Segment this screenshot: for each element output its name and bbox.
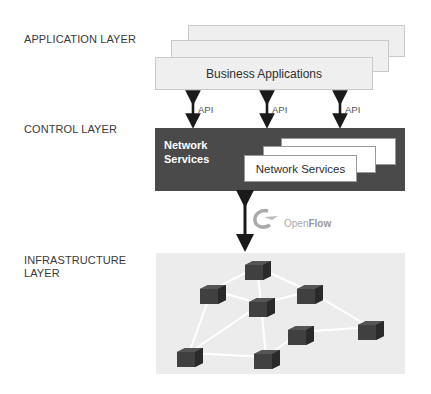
double-arrow-icon — [193, 98, 340, 121]
network-services-label: Network Services — [256, 163, 345, 175]
openflow-logo-icon — [252, 207, 280, 231]
business-applications-box: Business Applications — [155, 57, 373, 90]
control-title: Network Services — [164, 138, 209, 166]
infrastructure-label-line2: LAYER — [24, 267, 126, 280]
openflow-label: OpenFlow — [284, 218, 331, 229]
application-layer-label: APPLICATION LAYER — [24, 33, 136, 46]
openflow-label-open: Open — [284, 218, 308, 229]
business-applications-label: Business Applications — [206, 67, 322, 81]
control-layer-label: CONTROL LAYER — [24, 123, 117, 136]
api-label-3: API — [345, 104, 360, 115]
api-label-1: API — [198, 104, 213, 115]
api-label-2: API — [272, 104, 287, 115]
infrastructure-label-line1: INFRASTRUCTURE — [24, 254, 126, 267]
network-topology — [156, 253, 405, 374]
infrastructure-layer-label: INFRASTRUCTURE LAYER — [24, 254, 126, 280]
openflow-label-flow: Flow — [308, 218, 331, 229]
control-title-line2: Services — [164, 152, 209, 166]
control-title-line1: Network — [164, 138, 209, 152]
network-services-box: Network Services — [244, 155, 357, 182]
